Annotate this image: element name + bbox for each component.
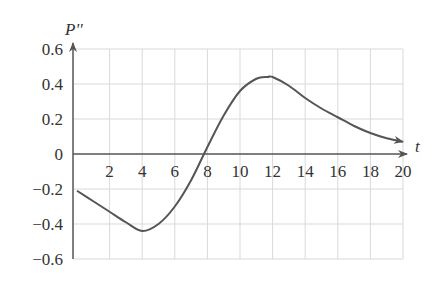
x-tick-label: 18	[362, 162, 379, 181]
x-tick-label: 20	[395, 162, 412, 181]
chart: 24681012141618200.60.40.20−0.2−0.4−0.6 t…	[0, 0, 437, 283]
y-tick-label: −0.6	[32, 250, 63, 269]
x-tick-label: 14	[297, 162, 315, 181]
x-tick-label: 2	[105, 162, 114, 181]
y-tick-label: −0.4	[32, 215, 63, 234]
y-axis-label: P''	[64, 20, 83, 39]
x-tick-label: 4	[138, 162, 147, 181]
y-tick-label: 0	[55, 145, 64, 164]
y-tick-label: −0.2	[32, 180, 63, 199]
x-tick-label: 12	[264, 162, 281, 181]
x-axis-label: t	[415, 137, 421, 156]
x-tick-label: 6	[171, 162, 180, 181]
y-tick-label: 0.2	[42, 110, 63, 129]
x-tick-label: 10	[232, 162, 249, 181]
y-tick-label: 0.6	[42, 40, 63, 59]
y-tick-label: 0.4	[42, 75, 64, 94]
x-tick-label: 16	[329, 162, 346, 181]
x-tick-label: 8	[203, 162, 212, 181]
